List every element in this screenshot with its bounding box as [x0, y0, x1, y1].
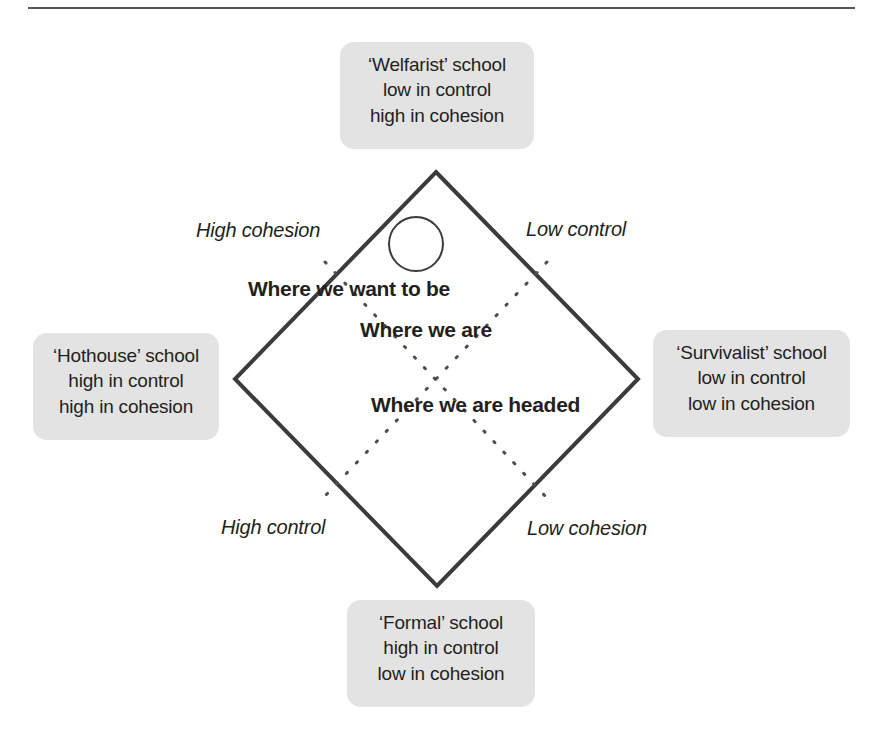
axis-label-high-control: High control [221, 516, 325, 539]
quadrant-box-line: high in cohesion [340, 103, 534, 128]
quadrant-box-line: low in control [653, 365, 850, 390]
quadrant-box-line: low in cohesion [653, 391, 850, 416]
quadrant-box-welfarist: ‘Welfarist’ school low in control high i… [340, 42, 534, 149]
quadrant-box-line: ‘Welfarist’ school [340, 52, 534, 77]
annotation-where-we-are: Where we are [360, 318, 492, 342]
quadrant-box-hothouse: ‘Hothouse’ school high in control high i… [33, 333, 219, 440]
quadrant-box-formal: ‘Formal’ school high in control low in c… [347, 600, 535, 707]
annotation-where-we-are-headed: Where we are headed [371, 393, 580, 417]
axis-label-low-cohesion: Low cohesion [527, 517, 647, 540]
quadrant-box-line: low in cohesion [347, 661, 535, 686]
quadrant-box-line: ‘Hothouse’ school [33, 343, 219, 368]
quadrant-box-line: high in cohesion [33, 394, 219, 419]
quadrant-box-line: ‘Formal’ school [347, 610, 535, 635]
quadrant-box-line: high in control [347, 635, 535, 660]
axis-label-high-cohesion: High cohesion [196, 219, 320, 242]
quadrant-box-line: low in control [340, 77, 534, 102]
quadrant-box-line: ‘Survivalist’ school [653, 340, 850, 365]
quadrant-box-survivalist: ‘Survivalist’ school low in control low … [653, 330, 850, 437]
annotation-where-we-want-to-be: Where we want to be [248, 277, 450, 301]
diagram-canvas: ‘Welfarist’ school low in control high i… [0, 0, 870, 744]
quadrant-box-line: high in control [33, 368, 219, 393]
axis-label-low-control: Low control [526, 218, 626, 241]
open-circle-marker [389, 217, 443, 271]
